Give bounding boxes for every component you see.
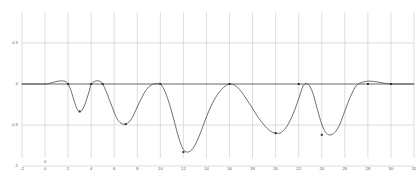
y-tick-label: -1 (4, 164, 18, 168)
x-tick-label: 22 (296, 167, 301, 171)
x-tick-label: 30 (389, 167, 394, 171)
data-point-marker (321, 134, 323, 136)
data-point-marker (102, 83, 104, 85)
x-tick-label: 32 (412, 167, 417, 171)
x-tick-label: 6 (113, 167, 115, 171)
data-point-marker (90, 83, 92, 85)
origin-label: 0 (44, 160, 46, 164)
x-tick-label: 8 (136, 167, 138, 171)
data-point-marker (367, 83, 369, 85)
x-tick-label: 20 (273, 167, 278, 171)
x-tick-label: 16 (227, 167, 232, 171)
series-line-signal (22, 81, 414, 152)
data-point-marker (275, 132, 277, 134)
data-point-marker (229, 83, 231, 85)
x-tick-label: 14 (204, 167, 209, 171)
x-tick-label: 26 (342, 167, 347, 171)
data-point-marker (390, 83, 392, 85)
plot-area (0, 0, 419, 186)
data-point-marker (79, 110, 81, 112)
data-point-marker (159, 83, 161, 85)
data-point-marker (125, 123, 127, 125)
x-tick-label: 28 (366, 167, 371, 171)
data-point-marker (182, 151, 184, 153)
x-tick-label: 2 (67, 167, 69, 171)
x-tick-label: 10 (158, 167, 163, 171)
chart-container: -2024681012141618202224262830320 0.50-0.… (0, 0, 419, 186)
x-tick-label: 24 (319, 167, 324, 171)
y-tick-label: -0.5 (4, 123, 18, 127)
x-tick-label: 12 (181, 167, 186, 171)
x-tick-label: 0 (44, 167, 46, 171)
x-tick-label: 4 (90, 167, 92, 171)
data-point-marker (298, 83, 300, 85)
data-point-marker (67, 83, 69, 85)
x-tick-label: 18 (250, 167, 255, 171)
y-tick-label: 0 (4, 82, 18, 86)
y-tick-label: 0.5 (4, 41, 18, 45)
vertical-gridlines (22, 12, 414, 158)
x-tick-label: -2 (20, 167, 24, 171)
horizontal-gridlines (22, 43, 414, 166)
